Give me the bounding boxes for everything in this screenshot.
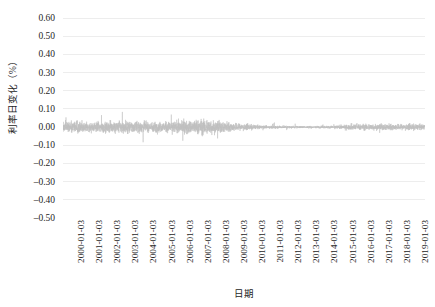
- x-axis-tick-label: 2016-01-03: [366, 220, 377, 282]
- x-axis-tick-label: 2000-01-03: [76, 220, 87, 282]
- y-axis-tick-label: –0.20: [34, 157, 55, 169]
- x-axis-tick-label: 2001-01-03: [94, 220, 105, 282]
- y-axis-tick-label: –0.40: [34, 194, 55, 206]
- x-axis-tick-label: 2004-01-03: [148, 220, 159, 282]
- y-axis-tick-label: 0.50: [38, 30, 55, 42]
- x-axis-tick-label: 2014-01-03: [329, 220, 340, 282]
- x-axis-tick-label: 2017-01-03: [384, 220, 395, 282]
- data-series-line: [63, 112, 425, 142]
- x-axis-tick-labels: 2000-01-032001-01-032002-01-032003-01-03…: [63, 218, 425, 284]
- x-axis-tick-label: 2002-01-03: [112, 220, 123, 282]
- y-axis-tick-label: 0.10: [38, 103, 55, 115]
- interest-rate-daily-change-chart: 利率日变化（%） 0.600.500.400.300.200.100.00–0.…: [0, 0, 435, 307]
- x-axis-tick-label: 2018-01-03: [402, 220, 413, 282]
- x-axis-tick-label: 2015-01-03: [348, 220, 359, 282]
- x-axis-tick-label: 2009-01-03: [239, 220, 250, 282]
- x-axis-title: 日期: [63, 286, 425, 300]
- y-axis-tick-label: 0.60: [38, 12, 55, 24]
- y-axis-tick-label: –0.10: [34, 139, 55, 151]
- x-axis-tick-label: 2010-01-03: [257, 220, 268, 282]
- x-axis-tick-label: 2006-01-03: [185, 220, 196, 282]
- x-axis-tick-label: 2005-01-03: [167, 220, 178, 282]
- y-axis-tick-label: –0.50: [34, 212, 55, 224]
- y-axis-tick-label: –0.30: [34, 176, 55, 188]
- x-axis-tick-label: 2013-01-03: [311, 220, 322, 282]
- y-axis-tick-label: 0.00: [38, 121, 55, 133]
- x-axis-tick-label: 2019-01-03: [420, 220, 431, 282]
- plot-area: [63, 18, 425, 218]
- y-axis-tick-label: 0.30: [38, 67, 55, 79]
- y-axis-tick-label: 0.20: [38, 85, 55, 97]
- plot-svg: [63, 18, 425, 218]
- y-axis-tick-labels: 0.600.500.400.300.200.100.00–0.10–0.20–0…: [0, 0, 59, 240]
- y-axis-tick-label: 0.40: [38, 48, 55, 60]
- x-axis-tick-label: 2011-01-03: [275, 220, 286, 282]
- x-axis-tick-label: 2012-01-03: [293, 220, 304, 282]
- x-axis-tick-label: 2007-01-03: [203, 220, 214, 282]
- x-axis-tick-label: 2008-01-03: [221, 220, 232, 282]
- x-axis-tick-label: 2003-01-03: [130, 220, 141, 282]
